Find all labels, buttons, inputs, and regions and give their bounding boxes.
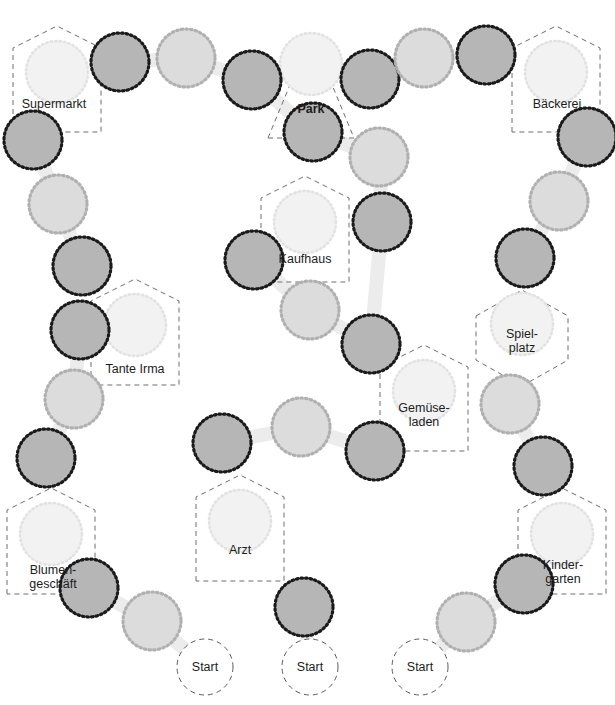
place-node-kindergarten[interactable] — [531, 503, 593, 565]
place-node-gemueseladen[interactable] — [393, 360, 455, 422]
path-node[interactable] — [272, 398, 330, 456]
start-nodes — [177, 639, 448, 695]
path-node[interactable] — [342, 315, 400, 373]
path-node[interactable] — [481, 375, 539, 433]
path-node[interactable] — [53, 237, 111, 295]
path-node[interactable] — [45, 370, 103, 428]
path-node[interactable] — [157, 29, 215, 87]
board-canvas — [0, 0, 615, 705]
path-node[interactable] — [51, 301, 109, 359]
place-node-supermarkt[interactable] — [26, 41, 88, 103]
path-node[interactable] — [558, 108, 615, 166]
path-node[interactable] — [350, 128, 408, 186]
place-node-arzt[interactable] — [209, 490, 271, 552]
path-node[interactable] — [530, 172, 588, 230]
start-node-start-2[interactable] — [282, 639, 338, 695]
path-node[interactable] — [123, 592, 181, 650]
path-node[interactable] — [353, 193, 411, 251]
path-node[interactable] — [4, 111, 62, 169]
place-node-blumengeschaeft[interactable] — [20, 503, 82, 565]
path-node[interactable] — [346, 422, 404, 480]
path-node[interactable] — [17, 429, 75, 487]
path-node[interactable] — [225, 231, 283, 289]
path-node[interactable] — [223, 51, 281, 109]
path-node[interactable] — [514, 437, 572, 495]
path-node[interactable] — [275, 578, 333, 636]
path-node[interactable] — [91, 33, 149, 91]
path-node[interactable] — [495, 555, 553, 613]
start-node-start-3[interactable] — [392, 639, 448, 695]
path-node[interactable] — [284, 103, 342, 161]
place-node-park[interactable] — [280, 33, 342, 95]
start-node-start-1[interactable] — [177, 639, 233, 695]
path-node[interactable] — [341, 50, 399, 108]
path-node[interactable] — [457, 26, 515, 84]
path-node[interactable] — [193, 414, 251, 472]
path-node[interactable] — [281, 281, 339, 339]
path-node[interactable] — [29, 175, 87, 233]
path-node[interactable] — [496, 229, 554, 287]
place-node-kaufhaus[interactable] — [274, 191, 336, 253]
path-node[interactable] — [395, 29, 453, 87]
game-board: SupermarktParkBäckereiKaufhausSpiel- pla… — [0, 0, 615, 705]
path-node[interactable] — [437, 593, 495, 651]
place-node-spielplatz[interactable] — [491, 293, 553, 355]
path-node[interactable] — [60, 559, 118, 617]
place-node-tante-irma[interactable] — [104, 294, 166, 356]
place-node-baeckerei[interactable] — [525, 41, 587, 103]
